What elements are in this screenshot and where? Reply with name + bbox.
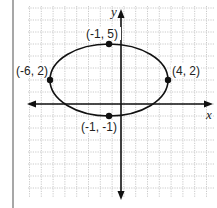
point-right [165,77,171,83]
label-left: (-6, 2) [16,64,48,78]
label-right: (4, 2) [172,64,200,78]
ellipse-curve [50,44,168,116]
x-axis-left-arrow-icon [27,101,36,108]
label-bottom: (-1, -1) [81,120,117,134]
ellipse-graph: x y (-1, 5) (-6, 2) (4, 2) (-1, -1) [0,0,217,208]
x-axis [27,101,213,108]
label-top: (-1, 5) [86,27,118,41]
y-axis-label: y [109,4,117,19]
point-bottom [106,113,112,119]
y-axis-bottom-arrow-icon [118,191,125,200]
y-axis-top-arrow-icon [118,9,125,18]
point-top [106,41,112,47]
x-axis-label: x [205,107,212,122]
